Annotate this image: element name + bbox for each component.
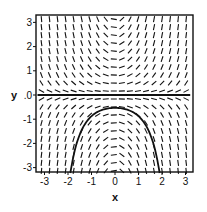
slope-segment	[95, 106, 101, 108]
slope-segment	[159, 90, 165, 92]
slope-segment	[87, 82, 92, 85]
slope-segment	[103, 106, 109, 107]
slope-segment	[57, 160, 58, 166]
slope-segment	[97, 168, 99, 174]
slope-segment	[41, 144, 42, 150]
slope-segment	[89, 144, 91, 150]
y-tick-label: -3	[23, 162, 32, 173]
slope-segment	[71, 81, 75, 85]
slope-segment	[41, 40, 42, 46]
slope-segment	[129, 168, 132, 173]
slope-segment	[55, 90, 61, 92]
slope-segment	[153, 24, 154, 30]
slope-segment	[127, 114, 132, 117]
slope-segment	[103, 82, 109, 83]
slope-segment	[145, 40, 147, 46]
slope-segment	[145, 152, 147, 158]
slope-segment	[95, 91, 101, 92]
slope-segment	[72, 112, 75, 117]
slope-segment	[168, 105, 172, 110]
slope-segment	[48, 72, 50, 78]
slope-segment	[175, 98, 180, 100]
slope-segment	[186, 56, 187, 62]
slope-segment	[41, 120, 43, 126]
slope-segment	[169, 112, 172, 117]
slope-segment	[128, 152, 131, 157]
slope-segment	[111, 170, 117, 171]
slope-segment	[161, 32, 162, 38]
slope-segment	[128, 24, 131, 29]
slope-segment	[177, 120, 179, 126]
slope-segment	[81, 136, 83, 142]
slope-segment	[41, 64, 43, 70]
slope-segment	[111, 139, 117, 140]
slope-segment	[137, 136, 140, 141]
slope-segment	[152, 105, 157, 109]
slope-segment	[159, 98, 165, 100]
slope-segment	[96, 160, 99, 165]
slope-segment	[167, 98, 173, 100]
slope-segment	[49, 120, 51, 126]
slope-segment	[41, 56, 42, 62]
slope-segment	[161, 112, 164, 117]
slope-segment	[49, 136, 50, 142]
slope-segment	[178, 168, 179, 174]
slope-segment	[170, 16, 171, 22]
slope-segment	[89, 16, 91, 22]
slope-segment	[152, 73, 155, 78]
slope-segment	[186, 144, 187, 150]
slope-segment	[129, 16, 132, 21]
slope-segment	[64, 81, 68, 85]
x-axis-label: x	[112, 191, 119, 203]
slope-segment	[57, 168, 58, 174]
slope-segment	[65, 24, 66, 30]
slope-segment	[88, 48, 91, 53]
slope-segment	[136, 73, 141, 77]
slope-segment	[65, 144, 66, 150]
slope-segment	[178, 48, 179, 54]
slope-segment	[79, 81, 84, 85]
slope-segment	[97, 16, 99, 22]
slope-segment	[137, 48, 140, 53]
slope-segment	[71, 98, 77, 100]
slope-segment	[111, 19, 117, 20]
slope-segment	[79, 98, 85, 99]
slope-segment	[57, 40, 58, 46]
slope-segment	[89, 168, 91, 174]
slope-segment	[176, 105, 180, 110]
slope-segment	[64, 105, 68, 109]
slope-segment	[186, 48, 187, 54]
y-tick-label: .0	[24, 90, 33, 101]
slope-segment	[95, 73, 100, 76]
slope-segment	[87, 106, 92, 109]
slope-segment	[65, 136, 66, 142]
slope-segment	[170, 24, 171, 30]
slope-segment	[81, 16, 82, 22]
slope-segment	[120, 17, 124, 21]
slope-segment	[41, 16, 42, 22]
slope-segment	[104, 145, 109, 149]
slope-segment	[40, 80, 43, 85]
slope-segment	[119, 122, 125, 124]
slope-segment	[111, 35, 117, 36]
slope-segment	[162, 16, 163, 22]
slope-segment	[175, 90, 180, 92]
slope-segment	[48, 105, 51, 110]
slope-segment	[145, 144, 147, 150]
slope-segment	[153, 16, 154, 22]
slope-segment	[135, 82, 140, 85]
slope-segment	[128, 65, 133, 69]
slope-segment	[111, 27, 117, 28]
slope-segment	[128, 33, 131, 38]
slope-segment	[57, 24, 58, 30]
slope-segment	[170, 40, 171, 46]
slope-segment	[162, 24, 163, 30]
slope-segment	[170, 160, 171, 166]
x-tick-label: 0	[112, 176, 118, 187]
slope-segment	[135, 99, 141, 100]
slope-segment	[127, 74, 132, 77]
slope-segment	[73, 40, 74, 46]
slope-segment	[88, 136, 91, 141]
slope-segment	[49, 152, 50, 158]
slope-segment	[177, 64, 179, 70]
